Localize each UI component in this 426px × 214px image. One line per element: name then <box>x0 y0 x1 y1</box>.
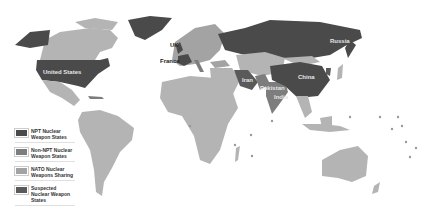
legend-swatch-suspected <box>15 186 28 194</box>
greenland <box>128 16 172 40</box>
label-united-states: United States <box>43 69 81 75</box>
label-russia: Russia <box>330 38 350 44</box>
legend-item-non-npt: Non-NPT Nuclear Weapon States <box>15 147 75 162</box>
legend-swatch-nato <box>15 167 28 175</box>
south-america <box>78 110 134 196</box>
label-china: China <box>298 74 315 80</box>
map-legend: NPT Nuclear Weapon States Non-NPT Nuclea… <box>15 128 75 210</box>
legend-item-nato: NATO Nuclear Weapons Sharing <box>15 166 75 181</box>
canada <box>40 28 118 60</box>
label-pakistan: Pakistan <box>260 85 285 91</box>
label-uk: UK <box>170 42 179 48</box>
label-france: France <box>160 58 180 64</box>
legend-label: NPT Nuclear Weapon States <box>31 128 75 140</box>
legend-label: Suspected Nuclear Weapon States <box>31 185 75 203</box>
legend-label: Non-NPT Nuclear Weapon States <box>31 147 75 159</box>
legend-swatch-non-npt <box>15 148 28 156</box>
label-iran: Iran <box>242 77 253 83</box>
label-india: India <box>274 94 288 100</box>
legend-label: NATO Nuclear Weapons Sharing <box>31 166 75 178</box>
legend-item-npt: NPT Nuclear Weapon States <box>15 128 75 143</box>
australia <box>322 146 368 182</box>
alaska <box>15 30 50 48</box>
legend-item-suspected: Suspected Nuclear Weapon States <box>15 185 75 206</box>
legend-swatch-npt <box>15 129 28 137</box>
